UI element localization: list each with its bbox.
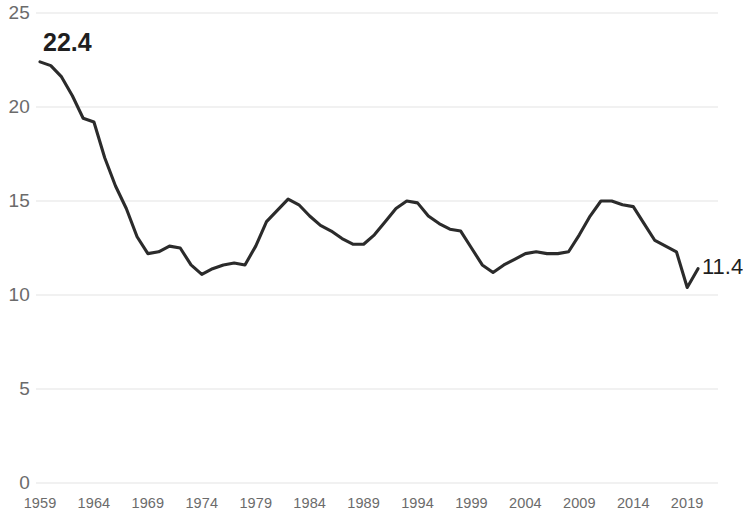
x-tick-label: 1984 [287,496,333,511]
y-tick-label: 20 [0,97,30,116]
y-tick-label: 15 [0,191,30,210]
x-tick-label: 1989 [341,496,387,511]
x-tick-label: 1974 [179,496,225,511]
x-tick-label: 1959 [17,496,63,511]
y-tick-label: 0 [0,473,30,492]
x-tick-label: 2004 [502,496,548,511]
y-tick-label: 5 [0,379,30,398]
x-tick-label: 1969 [125,496,171,511]
end-value-annotation: 11.4 [702,256,743,278]
x-tick-label: 2019 [664,496,710,511]
x-tick-label: 1999 [448,496,494,511]
x-tick-label: 1964 [71,496,117,511]
y-tick-label: 10 [0,285,30,304]
x-tick-label: 2009 [556,496,602,511]
y-tick-label: 25 [0,3,30,22]
x-tick-label: 1979 [233,496,279,511]
x-tick-label: 1994 [395,496,441,511]
gridlines-group [36,13,718,483]
x-tick-label: 2014 [610,496,656,511]
series-line-rate [40,62,698,288]
start-value-annotation: 22.4 [43,30,92,55]
